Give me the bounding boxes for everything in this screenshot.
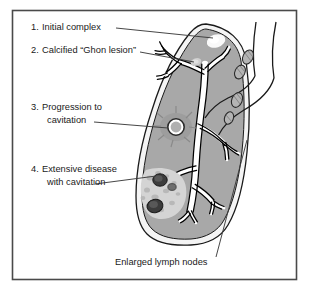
bronchus-ul-5 <box>155 52 166 53</box>
cavity-lower-inner <box>149 201 158 208</box>
label-2-number: 2. <box>31 45 39 55</box>
label-3-line2: cavitation <box>47 115 86 125</box>
figure-container: 1. Initial complex 2. Calcified “Ghon le… <box>0 0 309 297</box>
cavitation-cavity-inner <box>171 122 182 133</box>
label-4-line1: Extensive disease <box>42 164 117 174</box>
label-4-line2: with cavitation <box>46 177 105 187</box>
cavity-small <box>168 184 176 191</box>
label-4-number: 4. <box>31 164 39 174</box>
label-1-number: 1. <box>31 22 39 32</box>
label-2-line1: Calcified “Ghon lesion” <box>42 45 136 55</box>
label-1-line1: Initial complex <box>42 22 101 32</box>
label-3-number: 3. <box>31 102 39 112</box>
tuberculosis-diagram: 1. Initial complex 2. Calcified “Ghon le… <box>0 0 309 297</box>
label-3-line1: Progression to <box>42 102 102 112</box>
label-enlarged-lymph-nodes: Enlarged lymph nodes <box>115 257 208 267</box>
